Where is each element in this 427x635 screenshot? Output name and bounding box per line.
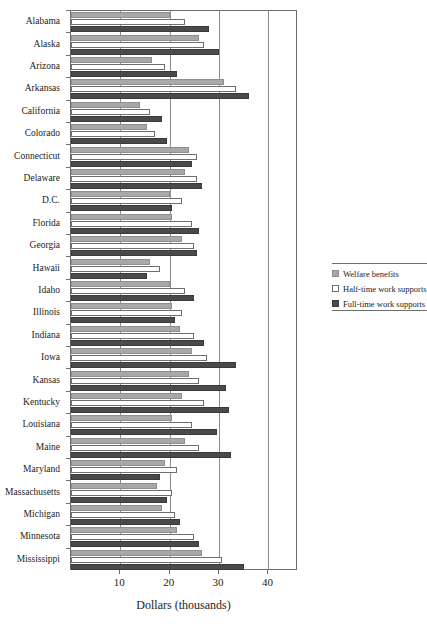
x-axis-tick-40 (267, 570, 268, 574)
bar-full (71, 497, 167, 503)
y-axis-label: Indiana (32, 330, 61, 340)
bar-group (71, 78, 296, 100)
bar-group (71, 437, 296, 459)
y-axis-tick (66, 368, 70, 369)
bar-full (71, 407, 229, 413)
bar-full (71, 385, 226, 391)
y-axis-tick (66, 458, 70, 459)
bar-group (71, 392, 296, 414)
bar-welfare (71, 460, 165, 466)
y-axis-tick (66, 279, 70, 280)
x-axis-tick-30 (218, 570, 219, 574)
y-axis-label: Kentucky (23, 397, 60, 407)
bar-half (71, 288, 185, 294)
y-axis-tick (66, 55, 70, 56)
y-axis-tick (66, 32, 70, 33)
chart-legend: Welfare benefitsHalf-time work supportsF… (332, 266, 427, 311)
y-axis-tick (66, 548, 70, 549)
y-axis-label: Georgia (30, 240, 60, 250)
bar-welfare (71, 169, 185, 175)
bar-half (71, 221, 192, 227)
bar-welfare (71, 371, 189, 377)
bar-welfare (71, 393, 182, 399)
bar-full (71, 138, 167, 144)
bar-group (71, 481, 296, 503)
bar-group (71, 101, 296, 123)
bar-group (71, 145, 296, 167)
bar-full (71, 564, 244, 570)
bar-welfare (71, 79, 224, 85)
bar-half (71, 266, 160, 272)
y-axis-tick (66, 100, 70, 101)
plot-area (70, 10, 297, 570)
bar-half (71, 42, 204, 48)
x-axis-tick-10 (119, 570, 120, 574)
bar-group (71, 168, 296, 190)
legend-item: Full-time work supports (332, 296, 427, 311)
bar-welfare (71, 236, 182, 242)
bar-group (71, 414, 296, 436)
bar-welfare (71, 35, 199, 41)
bar-group (71, 123, 296, 145)
bar-group (71, 56, 296, 78)
bar-welfare (71, 214, 172, 220)
bar-full (71, 317, 175, 323)
bar-half (71, 176, 197, 182)
bar-full (71, 295, 194, 301)
bar-full (71, 250, 197, 256)
y-axis-tick (66, 77, 70, 78)
bar-half (71, 422, 192, 428)
bar-group (71, 325, 296, 347)
bar-group (71, 213, 296, 235)
bar-chart: AlabamaAlaskaArizonaArkansasCaliforniaCo… (0, 0, 427, 635)
y-axis-tick (66, 212, 70, 213)
bar-group (71, 504, 296, 526)
bar-full (71, 71, 177, 77)
bar-half (71, 467, 177, 473)
y-axis-tick (66, 436, 70, 437)
y-axis-tick (66, 391, 70, 392)
bar-welfare (71, 124, 147, 130)
y-axis-tick (66, 301, 70, 302)
x-axis-title: Dollars (thousands) (70, 598, 297, 613)
bar-full (71, 541, 199, 547)
bar-full (71, 183, 202, 189)
bar-full (71, 362, 236, 368)
bar-welfare (71, 191, 170, 197)
y-axis-tick (66, 122, 70, 123)
bar-full (71, 429, 217, 435)
y-axis-tick (66, 167, 70, 168)
legend-label: Half-time work supports (343, 284, 427, 294)
bar-welfare (71, 303, 172, 309)
bar-half (71, 534, 194, 540)
y-axis-label: Florida (33, 218, 60, 228)
y-axis-tick (66, 346, 70, 347)
bar-welfare (71, 281, 170, 287)
legend-item: Half-time work supports (332, 281, 427, 296)
bar-half (71, 400, 204, 406)
bar-half (71, 445, 199, 451)
legend-label: Full-time work supports (343, 299, 425, 309)
bar-group (71, 235, 296, 257)
bar-full (71, 474, 160, 480)
bar-welfare (71, 483, 157, 489)
legend-swatch-full (332, 300, 339, 307)
bar-group (71, 369, 296, 391)
x-axis-tick-label: 40 (247, 576, 287, 589)
bar-welfare (71, 326, 180, 332)
y-axis-label: Maine (36, 442, 60, 452)
bar-half (71, 131, 155, 137)
x-axis-tick-label: 10 (99, 576, 139, 589)
bar-group (71, 280, 296, 302)
bar-group (71, 526, 296, 548)
bar-welfare (71, 147, 189, 153)
legend-swatch-half (332, 285, 339, 292)
x-axis-tick-label: 20 (149, 576, 189, 589)
bar-full (71, 452, 231, 458)
bar-welfare (71, 415, 172, 421)
bar-welfare (71, 57, 152, 63)
bar-welfare (71, 12, 170, 18)
legend-label: Welfare benefits (343, 269, 399, 279)
bar-group (71, 302, 296, 324)
y-axis-tick (66, 324, 70, 325)
